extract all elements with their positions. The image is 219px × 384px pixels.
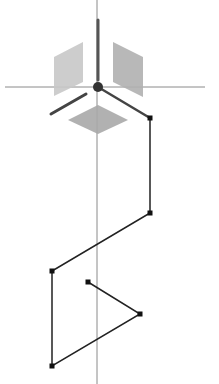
- path-node-5[interactable]: [86, 280, 91, 285]
- path-node-3[interactable]: [50, 364, 55, 369]
- hub-circle[interactable]: [93, 82, 103, 92]
- path-node-4[interactable]: [138, 312, 143, 317]
- path-node-1[interactable]: [148, 211, 153, 216]
- gizmo-hub[interactable]: [93, 82, 103, 92]
- path-node-2[interactable]: [50, 269, 55, 274]
- diagram-canvas: [0, 0, 219, 384]
- path-node-0[interactable]: [148, 116, 153, 121]
- background: [0, 0, 219, 384]
